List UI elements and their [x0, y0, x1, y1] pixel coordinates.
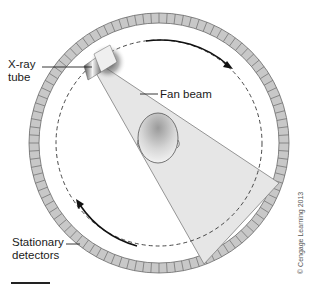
- rotation-arrow-top: [146, 40, 233, 69]
- copyright-notice: © Cengage Learning 2013: [297, 192, 304, 274]
- stationary-detectors-label: Stationary detectors: [12, 236, 64, 262]
- fan-beam-label: Fan beam: [160, 88, 212, 101]
- scale-bar: [11, 282, 50, 284]
- xray-tube-label: X-ray tube: [8, 58, 35, 84]
- xray-tube: [84, 44, 126, 80]
